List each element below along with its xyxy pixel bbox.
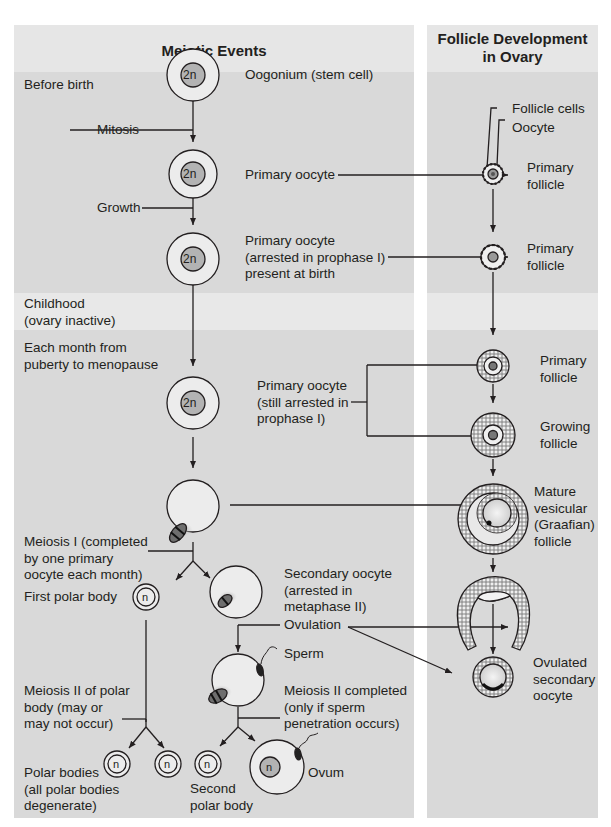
fertilizing-oocyte-cell [206,647,277,706]
ploidy-oogonium: 2n [183,67,196,84]
mature-graafian-follicle [458,484,528,554]
cropped-title-fragment-1: . [418,0,421,6]
primary-follicle-3 [477,350,509,382]
label-oocyte: Oocyte [512,120,555,137]
label-ovulated-oocyte: Ovulated secondary oocyte [533,655,595,705]
process-growth: Growth [97,200,141,217]
ploidy-polar-body-1: n [113,756,119,773]
label-secondary-oocyte: Secondary oocyte (arrested in metaphase … [284,566,392,616]
label-primary-oocyte-arrested: Primary oocyte (arrested in prophase I) … [245,233,385,283]
label-second-polar-body: Second polar body [190,781,253,814]
label-follicle-cells: Follicle cells [512,101,585,118]
ovulated-secondary-oocyte [473,657,513,697]
ploidy-primary-oocyte: 2n [183,166,196,183]
growing-follicle [471,413,515,457]
process-ovulation: Ovulation [284,617,341,634]
label-first-polar-body: First polar body [24,589,117,606]
label-oogonium: Oogonium (stem cell) [245,67,373,84]
ploidy-polar-body-2: n [164,756,170,773]
stage-before-birth: Before birth [24,77,94,94]
stage-monthly: Each month from puberty to menopause [24,340,158,373]
cropped-title-fragment-2: . [590,0,593,6]
primary-follicle-2 [481,245,505,269]
process-meiosis-2-polar: Meiosis II of polar body (may or may not… [24,683,130,733]
label-polar-bodies: Polar bodies (all polar bodies degenerat… [24,765,119,815]
label-primary-oocyte: Primary oocyte [245,167,335,184]
process-mitosis: Mitosis [97,122,139,139]
label-primary-follicle-2: Primary follicle [527,241,574,274]
label-ovum: Ovum [308,765,344,782]
ploidy-first-polar-body: n [142,589,148,606]
process-meiosis-2-completed: Meiosis II completed (only if sperm pene… [284,683,407,733]
sperm-in-ovum-icon [294,733,318,760]
ploidy-primary-oocyte-arrested: 2n [183,251,196,268]
label-primary-oocyte-still: Primary oocyte (still arrested in propha… [257,378,349,428]
label-growing-follicle: Growing follicle [540,419,590,452]
ploidy-second-polar-body: n [204,756,210,773]
sperm-icon [256,647,277,677]
ploidy-ovum: n [266,759,272,776]
secondary-oocyte-cell [210,566,262,618]
process-sperm: Sperm [284,646,324,663]
label-primary-follicle-3: Primary follicle [540,353,587,386]
stage-childhood: Childhood (ovary inactive) [24,296,116,329]
label-mature-follicle: Mature vesicular (Graafian) follicle [534,484,595,550]
ovum-cell [250,733,318,794]
oocyte-meiosis-1-cell [166,480,219,545]
process-meiosis-1: Meiosis I (completed by one primary oocy… [24,534,148,584]
ploidy-primary-oocyte-still: 2n [183,395,196,412]
primary-follicle-1 [483,164,503,184]
label-primary-follicle-1: Primary follicle [527,160,574,193]
